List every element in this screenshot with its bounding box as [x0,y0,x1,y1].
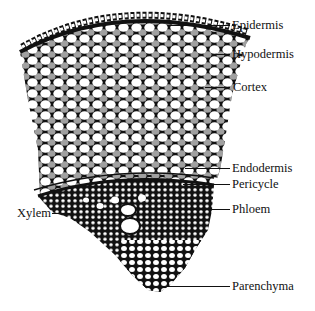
tissue-diagram: Epidermis Hypodermis Cortex Endodermis P… [0,0,315,311]
pericycle-leader [183,184,230,185]
label-cortex: Cortex [233,80,267,94]
phloem-leader [180,209,230,210]
label-xylem: Xylem [17,206,51,220]
label-pericycle: Pericycle [232,177,279,191]
epidermis-leader [170,25,230,26]
cortex-leader [205,87,230,88]
hypodermis-leader [215,54,230,55]
label-phloem: Phloem [232,202,270,216]
xylem-leader [52,213,70,214]
endodermis-leader [185,168,230,169]
label-parenchyma: Parenchyma [232,279,294,293]
parenchyma-leader [160,286,230,287]
label-endodermis: Endodermis [232,161,292,175]
label-hypodermis: Hypodermis [232,47,294,61]
label-epidermis: Epidermis [232,18,283,32]
